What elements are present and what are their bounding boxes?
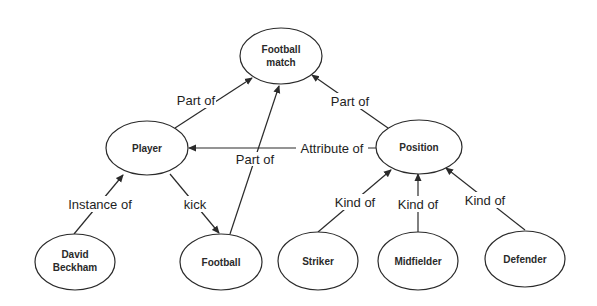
edge-beckham-instanceof-player: Instance of [68,175,132,234]
edge-label: Instance of [68,197,132,212]
edge-label: Part of [236,152,275,167]
node-label: Midfielder [394,256,441,267]
edge-midfielder-kindof-position: Kind of [397,174,439,232]
edge-player-kick-football: kick [170,174,219,233]
node-player: Player [106,121,188,175]
node-label-line2: match [266,57,295,68]
node-label: Striker [302,256,334,267]
node-label: Football [202,257,241,268]
node-label-line1: David [61,249,88,260]
edge-position-partof-match: Part of [312,75,388,128]
node-defender: Defender [485,231,565,287]
edge-label: Kind of [398,197,439,212]
edge-striker-kindof-position: Kind of [318,170,391,232]
edge-player-partof-match: Part of [175,78,252,128]
node-position: Position [376,120,462,174]
edge-label: Kind of [465,193,506,208]
node-striker: Striker [278,232,358,290]
edge-label: Part of [331,94,370,109]
node-football: Football [180,234,262,290]
semantic-network-diagram: Part of Part of Attribute of Part of Ins… [0,0,597,306]
node-label: Defender [503,254,546,265]
node-label-line1: Football [262,44,301,55]
edge-label: Part of [177,93,216,108]
edge-position-attributeof-player: Attribute of [189,140,376,156]
node-midfielder: Midfielder [378,232,458,290]
node-football-match: Football match [240,28,322,84]
node-label: Position [399,142,438,153]
edge-label: Kind of [335,195,376,210]
edge-defender-kindof-position: Kind of [446,168,525,230]
edge-football-partof-match: Part of [230,86,279,234]
node-label-line2: Beckham [53,262,98,273]
edge-label: Attribute of [301,141,364,156]
node-label: Player [132,143,162,154]
node-david-beckham: David Beckham [35,234,115,290]
edge-label: kick [184,197,207,212]
